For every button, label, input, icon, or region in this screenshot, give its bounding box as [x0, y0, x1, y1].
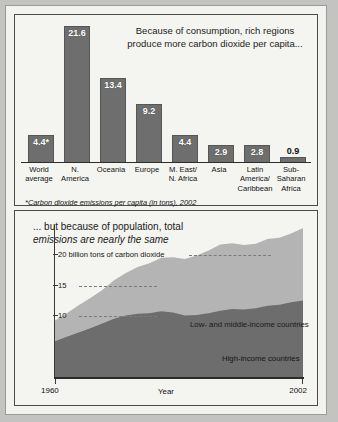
y-tick-mark [53, 315, 58, 316]
bar-value-label: 0.9 [280, 146, 307, 156]
bar-category-label: N.America [57, 165, 93, 184]
bar-value-label: 2.8 [244, 147, 271, 157]
y-gridline [79, 316, 157, 317]
figure-paper: Because of consumption, rich regions pro… [6, 6, 326, 414]
area-legend-high-income: High-income countries [222, 354, 300, 363]
area-chart-panel: ... but because of population, total emi… [14, 210, 318, 406]
area-chart-x-axis [54, 377, 304, 379]
y-tick-label: 20 billion tons of carbon dioxide [58, 250, 164, 259]
bar-column: 0.9 [280, 23, 307, 163]
bar-category-label: Worldaverage [21, 165, 57, 184]
bar-chart-footnote: *Carbon dioxide emissions per capita (in… [25, 198, 196, 207]
bar-chart-baseline [21, 162, 311, 163]
area-legend-low-middle-income: Low- and middle-income countries [190, 320, 309, 329]
bar-category-label: M. East/N. Africa [165, 165, 201, 184]
bar-category-label: Sub-SaharanAfrica [273, 165, 309, 193]
bar-category-line: average [21, 174, 57, 183]
bar-category-line: M. East/ [165, 165, 201, 174]
bar-column: 21.6 [64, 23, 91, 163]
y-gridline [79, 286, 157, 287]
area-chart-y-axis [54, 225, 55, 377]
y-tick-mark [53, 285, 58, 286]
bar-category-line: Latin [237, 165, 273, 174]
bar-value-label: 21.6 [64, 28, 91, 38]
bar-category-line: Asia [201, 165, 237, 174]
bar-value-label: 2.9 [208, 147, 235, 157]
bar-chart-plot-area: 4.4*21.613.49.24.42.92.80.9 [23, 23, 311, 163]
y-gridline [189, 255, 271, 256]
bar-category-label: Europe [129, 165, 165, 174]
bar-column: 4.4* [28, 23, 55, 163]
bar-category-line: America/ [237, 174, 273, 183]
bar-category-line: America [57, 174, 93, 183]
y-tick-label: 15 [58, 281, 66, 290]
bar-category-label: Asia [201, 165, 237, 174]
figure-root: Because of consumption, rich regions pro… [0, 0, 338, 422]
bar-value-label: 9.2 [136, 106, 163, 116]
y-tick-label: 10 [58, 311, 66, 320]
y-tick-mark [53, 254, 58, 255]
bar-category-line: Saharan [273, 174, 309, 183]
x-tick-end [302, 379, 303, 384]
bar-category-label: Oceania [93, 165, 129, 174]
bar-category-line: N. [57, 165, 93, 174]
bar-rect [100, 78, 127, 163]
bar-chart-panel: Because of consumption, rich regions pro… [14, 14, 318, 206]
bar-category-line: Africa [273, 184, 309, 193]
bar-column: 2.9 [208, 23, 235, 163]
bar-value-label: 4.4 [172, 137, 199, 147]
bar-column: 4.4 [172, 23, 199, 163]
bar-category-line: Caribbean [237, 184, 273, 193]
bar-category-line: Sub- [273, 165, 309, 174]
bar-category-label: LatinAmerica/Caribbean [237, 165, 273, 193]
x-axis-name: Year [15, 387, 317, 396]
bar-rect [64, 26, 91, 163]
bar-column: 2.8 [244, 23, 271, 163]
bar-category-line: Europe [129, 165, 165, 174]
bar-chart-category-axis: WorldaverageN.AmericaOceaniaEuropeM. Eas… [21, 165, 311, 197]
bar-category-line: World [21, 165, 57, 174]
bar-category-line: Oceania [93, 165, 129, 174]
bar-column: 13.4 [100, 23, 127, 163]
bar-category-line: N. Africa [165, 174, 201, 183]
x-tick-start [55, 379, 56, 384]
bar-value-label: 4.4* [28, 137, 55, 147]
bar-column: 9.2 [136, 23, 163, 163]
bar-value-label: 13.4 [100, 80, 127, 90]
